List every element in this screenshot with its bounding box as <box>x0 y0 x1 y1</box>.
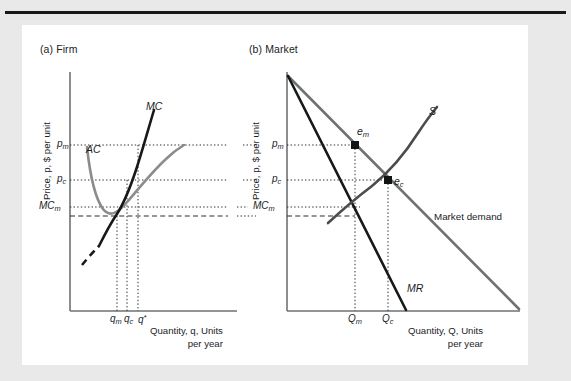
panel-b-x-axis-label: Quantity, Q, Units per year <box>408 325 483 350</box>
panel-a-mc-curve-label: MC <box>146 100 162 112</box>
panel-a-x-axis-label-line2: per year <box>188 338 223 349</box>
panel-a-ytick-mcm-sub: m <box>55 204 61 213</box>
panel-b-y-axis-label: Price, p, $ per unit <box>250 122 261 200</box>
panel-b-mr-curve-label: MR <box>407 282 423 294</box>
panel-a-ac-curve <box>87 145 184 214</box>
panel-a-title: (a) Firm <box>40 43 78 55</box>
panel-b-ytick-pm: pm <box>272 138 284 151</box>
panel-b-supply-curve <box>328 107 437 223</box>
panel-b-ytick-mcm: MCm <box>253 200 275 213</box>
panel-b-mr-curve <box>288 76 406 310</box>
panel-a-x-axis-label: Quantity, q, Units per year <box>150 325 223 350</box>
panel-a-ytick-mcm-base: MC <box>39 200 55 211</box>
panel-a-ytick-pc-sub: c <box>63 177 67 186</box>
panel-b-graphics <box>237 72 520 311</box>
panel-b-ec-label: ec <box>394 175 404 189</box>
panel-a-mc-dashed-extension <box>82 246 99 265</box>
panel-a-xtick-qc-sub: c <box>130 317 134 326</box>
panel-b-xtick-qm-base: Q <box>348 313 356 324</box>
panel-a-xtick-qc: qc <box>124 313 133 326</box>
panel-b-market-demand-curve <box>288 76 519 309</box>
panel-a-x-axis-label-line1: Quantity, q, Units <box>150 325 223 336</box>
figure-root: (a) Firm Price, p, $ per unit Quantity, … <box>0 0 571 381</box>
panel-a-ytick-pm: pm <box>57 138 69 151</box>
panel-b-x-axis-label-line1: Quantity, Q, Units <box>408 325 483 336</box>
panel-a-xtick-qm-sub: m <box>116 317 122 326</box>
panel-b-ytick-mcm-sub: m <box>269 204 275 213</box>
panel-b-ytick-pm-sub: m <box>278 142 284 151</box>
panel-b-xtick-qc-base: Q <box>382 313 390 324</box>
panel-a-ytick-pc: pc <box>57 173 66 186</box>
panel-b-ec-label-sub: c <box>400 180 404 189</box>
panel-a-y-axis-label: Price, p, $ per unit <box>41 122 52 200</box>
panel-b-em-label-sub: m <box>363 130 369 139</box>
panel-b-ytick-pc: pc <box>272 173 281 186</box>
panel-b-xtick-qm: Qm <box>348 313 362 326</box>
panel-b-xtick-qm-sub: m <box>356 317 362 326</box>
panel-a-xtick-qstar-sub: * <box>144 313 147 322</box>
panel-b-title: (b) Market <box>249 43 298 55</box>
panel-a-xtick-qstar: q* <box>138 313 146 325</box>
panel-b-ytick-mcm-base: MC <box>253 200 269 211</box>
panel-b-xtick-qc-sub: c <box>390 317 394 326</box>
figure-graphics <box>0 0 571 381</box>
panel-b-xtick-qc: Qc <box>382 313 393 326</box>
panel-a-ytick-mcm: MCm <box>39 200 61 213</box>
panel-b-ec-marker <box>384 176 392 184</box>
panel-a-xtick-qm: qm <box>110 313 122 326</box>
panel-b-em-label: em <box>357 125 369 139</box>
panel-b-ytick-pc-sub: c <box>278 177 282 186</box>
panel-a-mc-curve <box>99 110 154 246</box>
panel-a-ac-curve-label: AC <box>86 143 101 155</box>
panel-b-supply-curve-label: S <box>429 105 436 117</box>
panel-a-ytick-pm-sub: m <box>63 142 69 151</box>
panel-b-x-axis-label-line2: per year <box>448 338 483 349</box>
panel-b-market-demand-label: Market demand <box>434 211 502 222</box>
panel-b-em-marker <box>351 141 359 149</box>
